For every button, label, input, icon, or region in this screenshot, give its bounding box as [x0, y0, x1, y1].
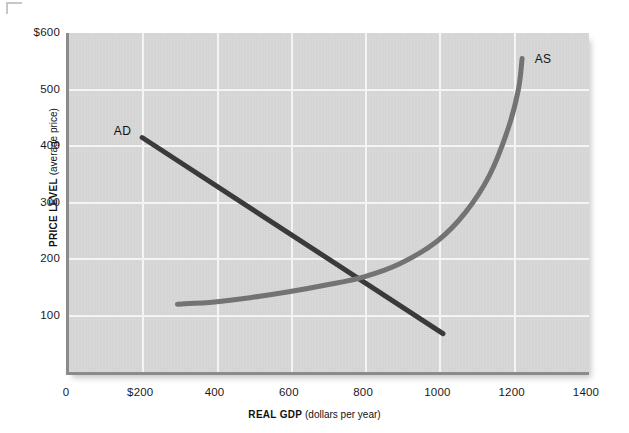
gridline-horizontal: [69, 258, 589, 260]
x-tick-label: 600: [279, 386, 299, 398]
x-tick-label: 1400: [573, 386, 599, 398]
x-axis-title-bold: REAL GDP: [248, 409, 302, 420]
y-tick-label: 100: [40, 309, 60, 321]
gridline-vertical: [365, 33, 367, 372]
plot-inner: [69, 33, 589, 372]
gridline-vertical: [142, 33, 144, 372]
x-axis-title: REAL GDP (dollars per year): [0, 409, 629, 420]
x-tick-label: 1200: [499, 386, 525, 398]
x-tick-label: 800: [353, 386, 373, 398]
plot-area: [66, 33, 589, 375]
chart-figure: $600500400300200100 0$200400600800100012…: [0, 0, 629, 433]
y-axis-title-bold: PRICE LEVEL: [48, 178, 59, 247]
gridline-vertical: [217, 33, 219, 372]
y-tick-label: $600: [34, 26, 60, 38]
y-axis-title-normal: (average price): [48, 108, 59, 175]
gridline-vertical: [514, 33, 516, 372]
gridline-horizontal: [69, 202, 589, 204]
x-tick-label: $200: [127, 386, 153, 398]
gridline-vertical: [291, 33, 293, 372]
x-tick-label: 400: [205, 386, 225, 398]
gridline-vertical: [439, 33, 441, 372]
x-tick-label: 0: [63, 386, 70, 398]
curve-label-ad: AD: [114, 124, 131, 138]
x-tick-label: 1000: [424, 386, 450, 398]
curve-label-as: AS: [535, 52, 552, 66]
gridline-horizontal: [69, 89, 589, 91]
x-axis-title-normal: (dollars per year): [305, 409, 381, 420]
gridline-horizontal: [69, 315, 589, 317]
gridline-horizontal: [69, 145, 589, 147]
y-axis-title: PRICE LEVEL (average price): [48, 88, 59, 268]
